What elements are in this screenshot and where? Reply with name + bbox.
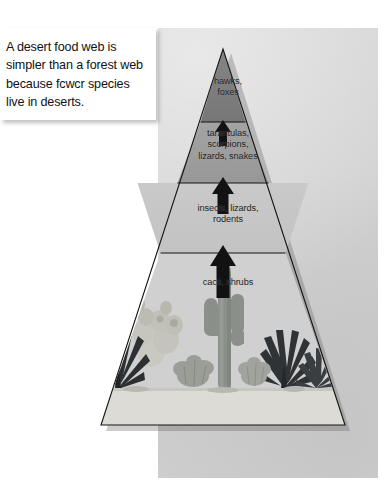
pyramid-tier-label-top: hawks, foxes bbox=[188, 76, 268, 99]
desert-ground bbox=[88, 388, 358, 428]
callout-text-box: A desert food web is simpler than a fore… bbox=[0, 28, 156, 120]
pyramid-tier-label-base: cacti, shrubs bbox=[158, 277, 298, 288]
pyramid-tier-label-upper-middle: tarantulas, scorpions, lizards, snakes bbox=[168, 128, 288, 162]
pyramid-tier-label-lower-middle: insects, lizards, rodents bbox=[163, 203, 293, 226]
callout-paragraph: A desert food web is simpler than a fore… bbox=[6, 38, 146, 112]
